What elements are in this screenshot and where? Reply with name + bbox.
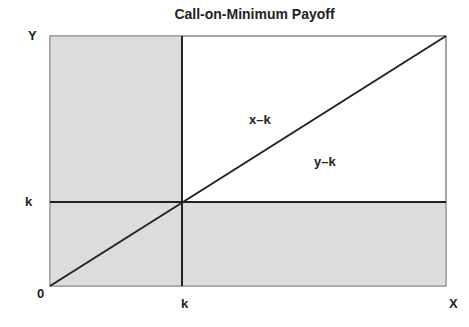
y-axis-label: Y: [28, 28, 37, 43]
x-minus-k-label: x–k: [249, 112, 271, 127]
k-x-tick-label: k: [181, 296, 188, 311]
payoff-diagram: [0, 0, 469, 327]
shaded-region-y-below-k: [50, 202, 446, 286]
y-minus-k-label: y–k: [314, 154, 336, 169]
k-y-tick-label: k: [25, 194, 32, 209]
x-axis-label: X: [449, 296, 458, 311]
origin-label: 0: [37, 286, 44, 301]
